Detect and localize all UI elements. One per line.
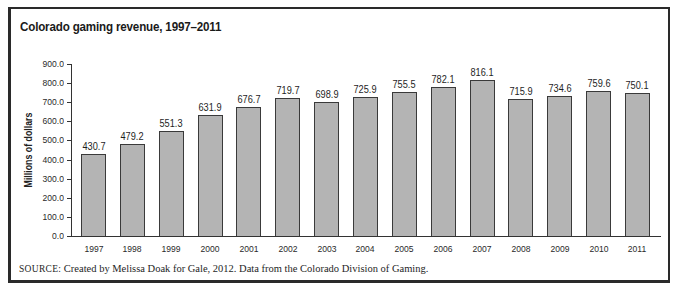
y-tick: [67, 236, 71, 237]
x-tick-label: 1997: [76, 243, 112, 254]
bar-value-label: 479.2: [114, 131, 151, 142]
bar-value-label: 734.6: [542, 83, 579, 94]
bar-2003: [314, 102, 339, 236]
y-tick: [67, 64, 71, 65]
bar-2000: [198, 115, 223, 236]
y-tick-label: 500.0: [19, 134, 64, 145]
bar-2002: [275, 98, 300, 236]
bar-value-label: 725.9: [347, 84, 384, 95]
bar-value-label: 755.5: [386, 79, 423, 90]
source-text: Created by Melissa Doak for Gale, 2012. …: [61, 263, 428, 274]
y-tick: [67, 160, 71, 161]
y-tick-label: 700.0: [19, 96, 64, 107]
x-tick-label: 2001: [231, 243, 267, 254]
y-tick-label: 400.0: [19, 154, 64, 165]
y-tick: [67, 198, 71, 199]
y-tick-label: 100.0: [19, 211, 64, 222]
bar-2005: [392, 92, 417, 236]
y-axis-line: [71, 64, 72, 236]
y-tick: [67, 83, 71, 84]
source-note: SOURCE: Created by Melissa Doak for Gale…: [19, 263, 428, 274]
y-tick: [67, 179, 71, 180]
x-axis-line: [67, 236, 661, 237]
x-tick-label: 2011: [619, 243, 655, 254]
x-tick-label: 2000: [192, 243, 228, 254]
bar-value-label: 719.7: [270, 85, 307, 96]
x-tick-label: 1999: [153, 243, 189, 254]
y-tick-label: 900.0: [19, 58, 64, 69]
bar-2004: [353, 97, 378, 236]
bar-value-label: 676.7: [231, 94, 268, 105]
bar-2011: [625, 93, 650, 236]
y-tick-label: 600.0: [19, 115, 64, 126]
x-tick-label: 2007: [464, 243, 500, 254]
bar-1997: [81, 154, 106, 236]
y-tick: [67, 121, 71, 122]
bar-value-label: 631.9: [192, 102, 229, 113]
bar-value-label: 782.1: [425, 74, 462, 85]
bar-value-label: 551.3: [153, 118, 190, 129]
bar-1999: [159, 131, 184, 236]
x-tick-label: 1998: [114, 243, 150, 254]
x-tick-label: 2010: [581, 243, 617, 254]
y-tick-label: 800.0: [19, 77, 64, 88]
y-tick: [67, 102, 71, 103]
x-tick-label: 2009: [542, 243, 578, 254]
y-tick-label: 300.0: [19, 173, 64, 184]
bar-2010: [586, 91, 611, 236]
y-tick-label: 0.0: [19, 230, 64, 241]
bar-value-label: 698.9: [309, 89, 346, 100]
x-tick-label: 2002: [270, 243, 306, 254]
y-tick-label: 200.0: [19, 192, 64, 203]
bar-value-label: 759.6: [581, 78, 618, 89]
bar-value-label: 750.1: [619, 80, 656, 91]
bar-value-label: 816.1: [464, 67, 501, 78]
bar-1998: [120, 144, 145, 236]
x-tick-label: 2004: [347, 243, 383, 254]
source-prefix: SOURCE:: [19, 264, 61, 274]
bar-2009: [547, 96, 572, 236]
x-tick-label: 2003: [309, 243, 345, 254]
bar-2001: [236, 107, 261, 236]
y-tick: [67, 140, 71, 141]
x-tick-label: 2008: [503, 243, 539, 254]
bar-2008: [508, 99, 533, 236]
bar-value-label: 715.9: [503, 86, 540, 97]
bar-2007: [470, 80, 495, 236]
bar-2006: [431, 87, 456, 236]
plot-area: 0.0100.0200.0300.0400.0500.0600.0700.080…: [0, 0, 680, 298]
bar-value-label: 430.7: [76, 141, 113, 152]
x-tick-label: 2006: [425, 243, 461, 254]
y-tick: [67, 217, 71, 218]
x-tick-label: 2005: [386, 243, 422, 254]
